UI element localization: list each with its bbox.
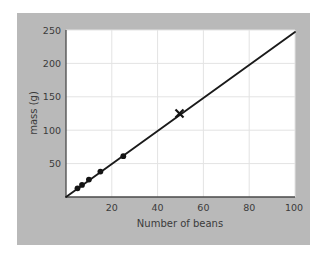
data-point [86,177,92,183]
figure-panel: 250 200 150 100 50 20 40 60 80 100 Numbe… [17,13,310,245]
y-tick-label-100: 100 [43,125,61,136]
data-point [120,153,126,159]
x-tick-label-100: 100 [285,202,303,213]
x-tick-label-20: 20 [106,202,118,213]
x-tick-label-60: 60 [197,202,209,213]
y-tick-label-250: 250 [43,25,61,36]
x-axis-title: Number of beans [137,218,223,229]
y-tick-label-200: 200 [43,58,61,69]
x-tick-label-40: 40 [152,202,164,213]
y-tick-label-50: 50 [49,158,61,169]
data-point [79,182,85,188]
y-axis-title: mass (g) [28,91,39,135]
chart-svg: 250 200 150 100 50 20 40 60 80 100 Numbe… [17,13,310,245]
x-tick-label-80: 80 [243,202,255,213]
data-point [98,169,104,175]
y-tick-label-150: 150 [43,91,61,102]
